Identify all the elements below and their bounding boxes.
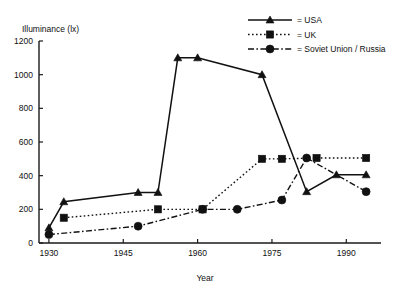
x-tick-label: 1975 (262, 248, 281, 258)
series-layer (45, 54, 370, 239)
series-line (64, 158, 366, 218)
x-axis-ticks: 19301945196019751990 (39, 239, 356, 258)
x-tick-label: 1990 (337, 248, 356, 258)
series-usa (45, 54, 370, 231)
data-point-marker (60, 214, 67, 221)
legend-label: = USA (297, 15, 322, 25)
y-tick-label: 400 (19, 171, 33, 181)
data-point-marker (258, 155, 265, 162)
y-tick-label: 800 (19, 103, 33, 113)
data-point-marker (303, 154, 311, 162)
legend-item-uk: = UK (248, 30, 316, 40)
data-point-marker (278, 155, 285, 162)
x-axis-label: Year (196, 273, 213, 283)
chart-figure: Illuminance (lx) 020040060080010001200 1… (0, 0, 393, 286)
data-point-marker (363, 154, 370, 161)
x-tick-label: 1945 (114, 248, 133, 258)
series-line (49, 58, 366, 228)
chart-legend: = USA= UK= Soviet Union / Russia (248, 15, 386, 54)
data-point-marker (313, 154, 320, 161)
y-tick-label: 1200 (14, 36, 33, 46)
y-tick-label: 600 (19, 137, 33, 147)
data-point-marker (45, 231, 53, 239)
data-point-marker (303, 188, 311, 195)
series-line (49, 158, 366, 235)
data-point-marker (233, 205, 241, 213)
y-tick-label: 1000 (14, 70, 33, 80)
series-uk (60, 154, 370, 221)
legend-label: = Soviet Union / Russia (297, 44, 386, 54)
data-point-marker (278, 196, 286, 204)
y-axis-label: Illuminance (lx) (22, 24, 79, 34)
data-point-marker (362, 188, 370, 196)
y-tick-label: 200 (19, 204, 33, 214)
y-tick-label: 0 (28, 238, 33, 248)
data-point-marker (45, 224, 53, 231)
x-tick-label: 1960 (188, 248, 207, 258)
x-tick-label: 1930 (39, 248, 58, 258)
legend-marker-sample (266, 31, 273, 38)
data-point-marker (154, 206, 161, 213)
legend-item-usa: = USA (248, 15, 322, 25)
series-soviet-union-russia (45, 154, 370, 239)
data-point-marker (199, 205, 207, 213)
legend-marker-sample (266, 45, 274, 53)
data-point-marker (134, 222, 142, 230)
legend-label: = UK (297, 30, 316, 40)
illuminance-by-year-line-chart: Illuminance (lx) 020040060080010001200 1… (0, 0, 393, 286)
legend-item-soviet-union-russia: = Soviet Union / Russia (248, 44, 386, 54)
